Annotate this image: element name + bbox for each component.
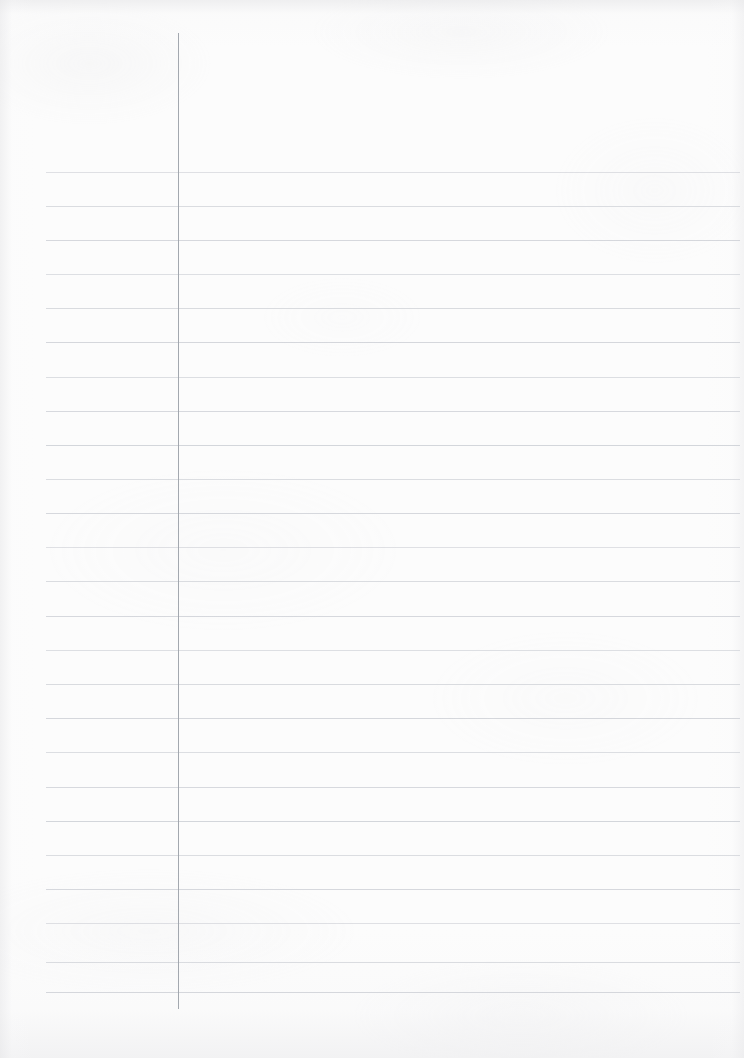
- paper-background: [0, 0, 744, 1058]
- notebook-page: [0, 0, 744, 1058]
- vertical-margin-line: [178, 33, 179, 1009]
